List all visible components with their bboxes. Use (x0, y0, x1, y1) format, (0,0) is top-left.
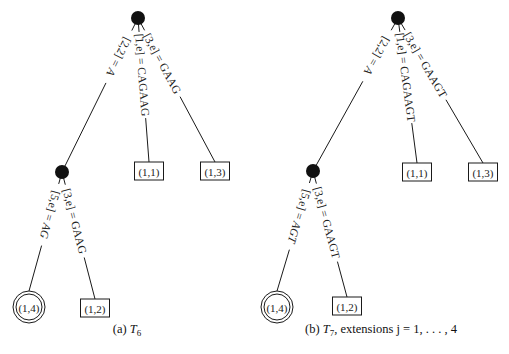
edge-label: [5,e] = AGT (284, 188, 313, 246)
leaf-leaf-1-1: (1,1) (403, 163, 432, 181)
edge-label-index: [3,e] = (60, 187, 81, 223)
edge-root-to-internal: [2,2] = A (313, 18, 398, 171)
leaf-leaf-1-4: (1,4) (261, 291, 293, 323)
leaf-label: (1,3) (472, 167, 493, 180)
edge-line (277, 250, 289, 291)
edge-internal-to-leaf_1_2: [3,e] = GAAGT (311, 171, 347, 297)
edge-label-index: [2,2] = (107, 35, 134, 71)
edge-root-to-internal: [2,2] = A (62, 18, 138, 172)
leaf-leaf-1-2: (1,2) (333, 297, 362, 315)
caption-prefix: (a) (113, 322, 130, 336)
leaf-label: (1,3) (204, 166, 225, 179)
edge-label: [2,2] = A (103, 35, 133, 79)
edge-line (337, 262, 347, 297)
edge-label-string: CAGAAGT (398, 66, 417, 123)
leaf-leaf-1-3: (1,3) (201, 162, 230, 180)
leaf-label: (1,1) (406, 167, 427, 180)
leaf-leaf-1-3: (1,3) (469, 163, 498, 181)
edge-label-index: [3,e] = (311, 185, 332, 221)
edge-label: [3,e] = GAAGT (311, 185, 343, 260)
leaf-label: (1,4) (18, 302, 39, 315)
edge-label: [2,2] = A (360, 34, 392, 77)
leaf-label: (1,4) (266, 302, 287, 315)
edge-label-string: GAAGT (419, 59, 450, 100)
edge-label: [3,e] = GAAG (60, 187, 89, 255)
edge-line (146, 118, 149, 162)
edge-label-string: AG (38, 221, 54, 241)
leaf-label: (1,2) (336, 301, 357, 314)
edge-label-index: [5,e] = (41, 189, 63, 225)
panel-b-tree-T7: [2,2] = A[1,e] = CAGAAGT[3,e] = GAAGT[5,… (261, 11, 498, 338)
edge-label-string: GAAGT (320, 218, 342, 260)
edge-label-string: GAAG (157, 61, 183, 96)
suffix-tree-figure: [2,2] = A[1,e] = CAGAAG[3,e] = GAAG[5,e]… (0, 0, 509, 354)
edge-label-string: AGT (285, 219, 303, 246)
root-node (391, 11, 405, 25)
edge-label-index: [5,e] = (291, 188, 313, 224)
leaf-leaf-1-2: (1,2) (81, 299, 110, 317)
leaf-leaf-1-1: (1,1) (135, 162, 164, 180)
caption-prefix: (b) (305, 322, 323, 336)
edge-label-index: [2,2] = (364, 34, 392, 70)
panel-caption: (b) T7, extensions j = 1, . . . , 4 (305, 322, 458, 338)
edge-line (29, 246, 42, 291)
edge-internal-to-leaf_1_4: [5,e] = AG (29, 172, 62, 291)
edge-line (446, 100, 483, 163)
leaf-label: (1,1) (138, 166, 159, 179)
leaf-leaf-1-4: (1,4) (13, 291, 45, 323)
caption-subscript: 6 (137, 328, 142, 338)
caption-suffix: , extensions j = 1, . . . , 4 (334, 322, 457, 336)
edge-internal-to-leaf_1_4: [5,e] = AGT (277, 171, 313, 291)
edge-line (84, 257, 95, 299)
edge-label-string: GAAG (69, 220, 89, 255)
internal-node (306, 164, 320, 178)
edge-line (62, 83, 106, 172)
root-node (131, 11, 145, 25)
panel-a-tree-T6: [2,2] = A[1,e] = CAGAAG[3,e] = GAAG[5,e]… (13, 11, 230, 338)
edge-internal-to-leaf_1_2: [3,e] = GAAG (60, 172, 95, 299)
edge-label: [5,e] = AG (37, 189, 63, 240)
leaf-label: (1,2) (84, 303, 105, 316)
panel-caption: (a) T6 (113, 322, 142, 338)
edge-line (412, 123, 417, 163)
edge-label-string: CAGAAG (136, 67, 152, 117)
edge-line (313, 81, 363, 171)
internal-node (55, 165, 69, 179)
edge-line (180, 97, 215, 162)
figure-canvas: [2,2] = A[1,e] = CAGAAG[3,e] = GAAG[5,e]… (0, 0, 509, 354)
